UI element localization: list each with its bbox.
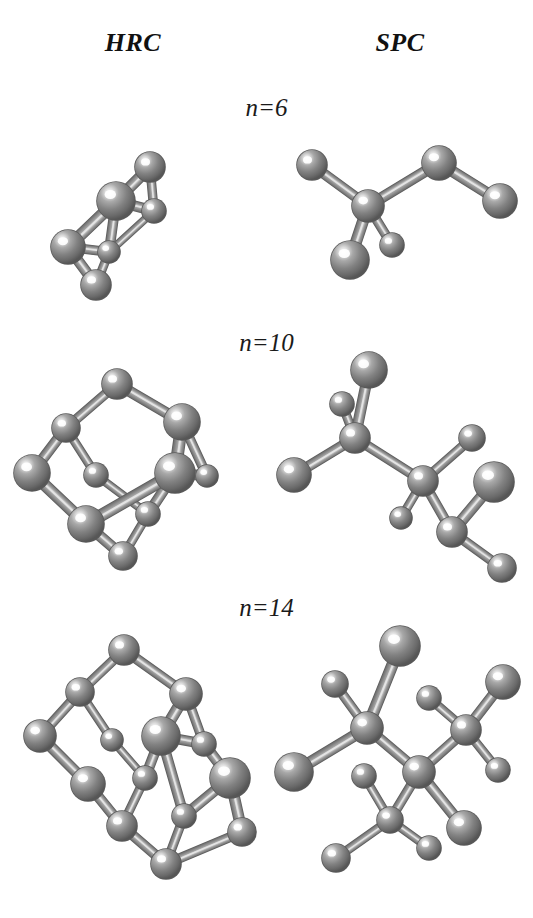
atom (70, 766, 106, 802)
atom (13, 454, 51, 492)
atom (276, 457, 312, 493)
atom-specular-highlight (357, 769, 364, 775)
atom-specular-highlight (200, 470, 207, 475)
atom (446, 810, 482, 846)
atom (51, 413, 81, 443)
atom (407, 465, 439, 497)
atom (416, 835, 442, 861)
atom (458, 424, 486, 452)
atom-specular-highlight (177, 809, 184, 815)
atom (150, 848, 182, 880)
atom-specular-highlight (147, 204, 154, 210)
atom (50, 229, 86, 265)
atom (80, 269, 112, 301)
atom-specular-highlight (141, 158, 150, 165)
atom-specular-highlight (335, 397, 342, 403)
atom (350, 711, 384, 745)
atom-specular-highlight (414, 472, 423, 479)
atom (321, 670, 349, 698)
atom (171, 803, 197, 829)
atom (141, 716, 181, 756)
atom (154, 452, 196, 494)
atom (450, 714, 482, 746)
atom (351, 763, 377, 789)
atom (416, 685, 442, 711)
atom-specular-highlight (454, 818, 464, 826)
atom (65, 677, 95, 707)
atom (389, 506, 413, 530)
atom-specular-highlight (491, 763, 498, 769)
atom-specular-highlight (284, 465, 294, 473)
atom-specular-highlight (327, 676, 335, 682)
atom-specular-highlight (102, 246, 109, 251)
atom-specular-highlight (443, 523, 452, 530)
atom (100, 728, 124, 752)
atom-specular-highlight (409, 763, 419, 771)
atom-specular-highlight (482, 470, 494, 480)
molecule-svg (46, 133, 246, 333)
atom (67, 505, 105, 543)
atom-group (13, 368, 219, 571)
molecule-svg (288, 352, 533, 612)
atom (351, 189, 385, 223)
molecule-svg (288, 636, 533, 896)
atom (132, 765, 158, 791)
atom (135, 501, 161, 527)
atom-specular-highlight (115, 641, 124, 648)
atom-specular-highlight (283, 761, 294, 770)
atom-specular-highlight (429, 153, 439, 161)
atom (487, 553, 517, 583)
atom (108, 634, 140, 666)
atom (436, 516, 468, 548)
atom-specular-highlight (358, 360, 369, 369)
atom-specular-highlight (75, 514, 86, 523)
molecule-spc-n14 (288, 636, 533, 896)
atom-specular-highlight (394, 512, 401, 517)
atom-specular-highlight (72, 684, 80, 691)
atom-specular-highlight (457, 721, 466, 728)
atom (97, 240, 121, 264)
atom-specular-highlight (150, 725, 161, 734)
atom-specular-highlight (171, 412, 182, 421)
atom-specular-highlight (105, 190, 116, 199)
atom-specular-highlight (157, 855, 166, 862)
molecular-structure-figure: HRC SPC n=6 n=10 n=14 (0, 0, 533, 918)
atom (473, 461, 515, 503)
atom-specular-highlight (218, 766, 230, 776)
atom-specular-highlight (493, 672, 503, 680)
atom-specular-highlight (422, 691, 429, 697)
atom-specular-highlight (113, 817, 122, 824)
atom-specular-highlight (141, 507, 148, 513)
atom (339, 422, 371, 454)
atom (379, 232, 405, 258)
molecule-hrc-n6 (46, 133, 246, 333)
atom (227, 817, 257, 847)
atom-specular-highlight (303, 156, 312, 163)
atom-specular-highlight (21, 463, 32, 472)
bond-group (36, 646, 248, 869)
atom (485, 757, 511, 783)
atom (350, 351, 388, 389)
atom (108, 541, 138, 571)
atom (296, 149, 328, 181)
atom-specular-highlight (58, 237, 68, 245)
atom (209, 757, 251, 799)
atom-specular-highlight (89, 468, 96, 474)
atom-specular-highlight (490, 191, 500, 199)
atom-specular-highlight (388, 634, 400, 644)
atom-specular-highlight (464, 430, 472, 436)
atom (321, 843, 351, 873)
atom-specular-highlight (138, 771, 145, 777)
molecule-svg (18, 636, 278, 906)
atom-specular-highlight (197, 737, 204, 743)
atom-group (296, 145, 518, 280)
atom (141, 198, 167, 224)
atom-specular-highlight (234, 824, 242, 831)
atom-specular-highlight (115, 548, 123, 555)
atom (83, 462, 109, 488)
atom (96, 181, 136, 221)
atom (482, 183, 518, 219)
molecule-svg (292, 133, 533, 333)
atom (274, 752, 314, 792)
atom-specular-highlight (176, 685, 186, 693)
